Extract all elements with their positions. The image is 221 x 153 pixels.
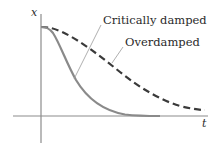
damping-diagram: x t Critically damped Overdamped xyxy=(0,0,221,153)
x-axis-label: t xyxy=(202,117,207,130)
overdamped-label: Overdamped xyxy=(125,35,201,49)
y-axis-label: x xyxy=(31,6,38,19)
critically-damped-label: Critically damped xyxy=(103,13,207,27)
critically-damped-leader xyxy=(74,25,101,79)
overdamped-leader xyxy=(112,47,123,63)
